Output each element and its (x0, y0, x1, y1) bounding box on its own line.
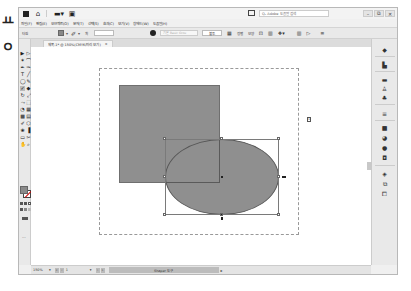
menu-icon[interactable]: ≡ (320, 30, 324, 36)
bbox-handle-bottom-left[interactable] (163, 213, 166, 216)
artboards-icon[interactable]: ⧉ (381, 181, 388, 186)
search-placeholder: Qᵥ Adobe 도움말 검색 (262, 11, 296, 16)
status-bar: 150% ▾ « ‹ 1 ▾ › » Shaper 도구 ▸ (31, 265, 371, 274)
workspace-switcher-icon[interactable]: ▬▾ (54, 10, 64, 17)
stroke-weight-field[interactable] (94, 30, 114, 36)
bbox-handle-top-right[interactable] (277, 137, 280, 140)
screen-mode-button[interactable] (22, 217, 28, 220)
status-menu-arrow[interactable]: ▸ (221, 268, 223, 273)
selection-tool-icon[interactable]: ▶ (20, 51, 25, 56)
fill-stroke-widget (20, 186, 31, 198)
close-button[interactable]: ✕ (385, 10, 395, 17)
fill-color-box[interactable] (20, 186, 28, 194)
panel-toggle-icon[interactable]: ▥ (297, 30, 302, 36)
home-icon[interactable]: ⌂ (34, 10, 42, 17)
symbol-sprayer-tool-icon[interactable]: ❀ (20, 128, 25, 133)
close-tab-icon[interactable]: × (105, 42, 108, 46)
bbox-handle-bottom-center[interactable] (220, 213, 223, 216)
ellipse-tool-icon[interactable]: ◯ (20, 79, 25, 84)
restore-button[interactable]: ⧉ (374, 10, 384, 17)
swatches-icon[interactable]: ▬ (381, 77, 388, 82)
draw-normal-button[interactable] (20, 208, 23, 211)
menu-type[interactable]: 문자(T) (73, 21, 84, 26)
transparency-icon[interactable]: ◕ (381, 135, 388, 140)
menu-help[interactable]: 도움말(H) (153, 21, 168, 26)
panel-collapse-tab[interactable] (367, 162, 372, 170)
style-field[interactable]: 기본 Basic Grou (160, 30, 198, 36)
eyedropper-tool-icon[interactable]: ✐ (20, 121, 25, 126)
menu-view[interactable]: 보기(V) (118, 21, 129, 26)
gradient-icon[interactable]: ■ (381, 125, 388, 130)
ai-logo-icon[interactable] (23, 11, 29, 17)
brushes-icon[interactable]: ♙ (381, 86, 388, 91)
align-panel-icon[interactable]: ▦ (227, 30, 232, 36)
ellipse-widget-handle[interactable] (282, 176, 286, 178)
mesh-tool-icon[interactable]: ▩ (20, 114, 25, 119)
arrange-icon[interactable]: ▥ (268, 30, 273, 36)
bbox-handle-middle-left[interactable] (163, 175, 166, 178)
divider (375, 104, 395, 105)
edit-toolbar-button[interactable]: ··· (22, 235, 26, 240)
fill-dropdown[interactable]: ▾ (66, 31, 68, 36)
appearance-icon[interactable]: ● (381, 145, 388, 150)
artboard-tool-icon[interactable]: ▭ (20, 135, 25, 140)
menu-edit[interactable]: 편집(E) (36, 21, 47, 26)
last-artboard-button[interactable]: » (101, 268, 105, 273)
arrange-documents-icon[interactable]: ▣ (68, 10, 76, 17)
bbox-handle-top-left[interactable] (163, 137, 166, 140)
divider (375, 120, 395, 121)
magic-wand-tool-icon[interactable]: ✶ (20, 58, 25, 63)
menu-select[interactable]: 선택(S) (88, 21, 99, 26)
shaper-tool-icon[interactable]: ✓ (20, 86, 25, 91)
graphic-styles-icon[interactable]: ◘ (381, 155, 388, 160)
menu-object[interactable]: 오브젝트(O) (51, 21, 69, 26)
first-artboard-button[interactable]: « (55, 268, 59, 273)
ellipse-pie-handle[interactable] (221, 217, 223, 220)
pen-tool-icon[interactable]: ✒ (20, 65, 25, 70)
document-title: 제목-1* @ 150%(CMYK/미리 보기) (48, 42, 101, 47)
isolate-icon[interactable]: ❖▾ (278, 30, 285, 36)
canvas[interactable]: 1 (31, 47, 371, 265)
gradient-button[interactable] (24, 202, 27, 205)
document-tab[interactable]: 제목-1* @ 150%(CMYK/미리 보기) × (43, 40, 113, 47)
draw-behind-button[interactable] (24, 208, 27, 211)
width-tool-icon[interactable]: ⤳ (20, 100, 25, 105)
menu-window[interactable]: 창에드(W) (133, 21, 148, 26)
next-artboard-button[interactable]: › (96, 268, 100, 273)
align-label[interactable]: 정렬 (237, 31, 243, 36)
zoom-dropdown[interactable]: ▾ (49, 268, 51, 272)
stroke-swatch-icon[interactable]: ✐ (71, 30, 76, 37)
color-button[interactable] (20, 202, 23, 205)
stroke-dropdown[interactable]: ▾ (78, 31, 80, 36)
symbols-icon[interactable]: ♣ (381, 95, 388, 100)
bbox-handle-bottom-right[interactable] (277, 213, 280, 216)
asset-export-icon[interactable]: ⧠ (381, 191, 388, 196)
fill-swatch[interactable] (58, 30, 64, 36)
launch-icon[interactable]: ▷ (306, 30, 310, 36)
menu-file[interactable]: 파일(F) (21, 21, 32, 26)
stroke-icon[interactable]: ≡ (381, 111, 388, 116)
hand-tool-icon[interactable]: ✋ (20, 142, 25, 147)
menu-effect[interactable]: 효과(C) (103, 21, 114, 26)
rotate-tool-icon[interactable]: ↻ (20, 93, 25, 98)
color-icon[interactable]: ▙ (381, 62, 388, 67)
screen-mode-icon[interactable] (248, 10, 255, 16)
artboard-dropdown[interactable]: ▾ (90, 268, 92, 272)
shape-builder-tool-icon[interactable]: ◔ (20, 107, 25, 112)
prev-artboard-button[interactable]: ‹ (60, 268, 64, 273)
divider (46, 10, 47, 17)
recolor-icon[interactable] (150, 30, 156, 36)
document-tab-bar: 제목-1* @ 150%(CMYK/미리 보기) × (31, 39, 371, 47)
shape-label[interactable]: 모양 (248, 31, 254, 36)
opacity-button[interactable]: 불투 (202, 30, 222, 36)
layers-icon[interactable]: ◈ (381, 171, 388, 176)
type-tool-icon[interactable]: T (20, 72, 25, 77)
bbox-handle-top-center[interactable] (220, 137, 223, 140)
artboard-number-field[interactable]: 1 (66, 268, 88, 272)
bbox-handle-middle-right[interactable] (277, 175, 280, 178)
transform-icon[interactable]: ⊡ (259, 30, 263, 36)
properties-icon[interactable]: ◆ (381, 47, 388, 52)
help-search-input[interactable]: Qᵥ Adobe 도움말 검색 (259, 10, 329, 17)
zoom-level-field[interactable]: 150% (33, 268, 47, 272)
minimize-button[interactable]: – (363, 10, 373, 17)
